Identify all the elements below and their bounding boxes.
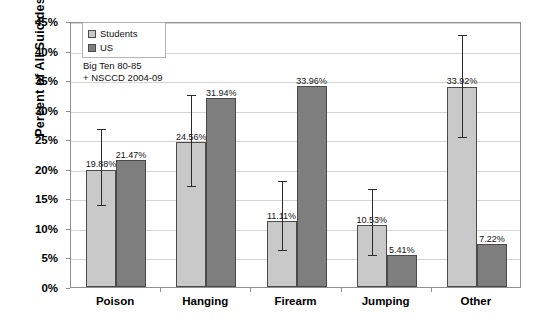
- y-tick-label: 5%: [0, 252, 58, 264]
- error-bar-stem: [462, 35, 463, 138]
- y-tick-mark: [66, 288, 70, 289]
- x-tick-mark: [250, 288, 251, 292]
- y-tick-mark: [66, 81, 70, 82]
- x-tick-label: Hanging: [182, 295, 228, 307]
- legend-item-students: Students: [88, 28, 160, 39]
- error-bar-stem: [372, 189, 373, 256]
- bar-value-label: 7.22%: [479, 234, 505, 244]
- chart-legend: Students US: [82, 22, 166, 58]
- error-bar-cap-top: [187, 95, 196, 96]
- legend-label-us: US: [100, 42, 113, 53]
- x-tick-label: Jumping: [362, 295, 410, 307]
- bar-chart: Percent of All Suicides 19.88%21.47%24.5…: [0, 0, 547, 325]
- students-swatch-icon: [88, 30, 96, 38]
- bar-jumping-us: [387, 255, 417, 287]
- y-tick-label: 40%: [0, 46, 58, 58]
- y-tick-mark: [66, 170, 70, 171]
- y-tick-label: 15%: [0, 193, 58, 205]
- bar-value-label: 33.96%: [296, 76, 327, 86]
- annotation-line-1: Big Ten 80-85: [83, 60, 162, 72]
- error-bar-stem: [101, 129, 102, 206]
- y-tick-label: 35%: [0, 75, 58, 87]
- legend-item-us: US: [88, 42, 160, 53]
- y-tick-mark: [66, 22, 70, 23]
- bar-poison-us: [116, 160, 146, 287]
- x-tick-mark: [431, 288, 432, 292]
- legend-label-students: Students: [100, 28, 138, 39]
- x-tick-label: Firearm: [274, 295, 316, 307]
- y-tick-mark: [66, 199, 70, 200]
- error-bar-cap-bottom: [368, 255, 377, 256]
- error-bar-cap-bottom: [458, 137, 467, 138]
- annotation-line-2: + NSCCD 2004-09: [83, 72, 162, 84]
- y-tick-label: 25%: [0, 134, 58, 146]
- y-tick-mark: [66, 52, 70, 53]
- y-tick-label: 10%: [0, 223, 58, 235]
- error-bar-cap-top: [458, 35, 467, 36]
- y-tick-mark: [66, 229, 70, 230]
- error-bar-cap-bottom: [187, 186, 196, 187]
- y-tick-mark: [66, 140, 70, 141]
- y-tick-label: 30%: [0, 105, 58, 117]
- bar-hanging-us: [206, 98, 236, 287]
- bar-value-label: 21.47%: [116, 150, 147, 160]
- y-tick-mark: [66, 258, 70, 259]
- y-tick-label: 0%: [0, 282, 58, 294]
- error-bar-cap-bottom: [278, 250, 287, 251]
- bar-firearm-us: [297, 86, 327, 287]
- bar-other-us: [477, 244, 507, 287]
- error-bar-cap-top: [97, 129, 106, 130]
- error-bar-stem: [282, 181, 283, 251]
- error-bar-cap-bottom: [97, 205, 106, 206]
- bar-value-label: 5.41%: [389, 245, 415, 255]
- chart-annotation: Big Ten 80-85 + NSCCD 2004-09: [83, 60, 162, 84]
- error-bar-stem: [191, 95, 192, 187]
- error-bar-cap-top: [368, 189, 377, 190]
- x-tick-mark: [341, 288, 342, 292]
- y-tick-label: 45%: [0, 16, 58, 28]
- us-swatch-icon: [88, 44, 96, 52]
- y-axis-title: Percent of All Suicides: [33, 0, 47, 187]
- y-tick-mark: [66, 111, 70, 112]
- x-tick-label: Other: [461, 295, 492, 307]
- bar-value-label: 31.94%: [206, 88, 237, 98]
- error-bar-cap-top: [278, 181, 287, 182]
- x-tick-label: Poison: [96, 295, 134, 307]
- y-tick-label: 20%: [0, 164, 58, 176]
- x-tick-mark: [160, 288, 161, 292]
